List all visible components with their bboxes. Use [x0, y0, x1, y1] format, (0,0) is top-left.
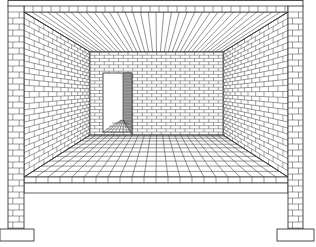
pillar-footings	[0, 229, 314, 241]
room-illustration	[0, 0, 316, 247]
ceiling	[24, 12, 288, 52]
tiled-floor	[24, 135, 288, 177]
floor-slab	[24, 177, 288, 193]
top-beam	[8, 1, 303, 13]
perspective-room-drawing	[0, 0, 316, 247]
doorway	[103, 73, 132, 135]
